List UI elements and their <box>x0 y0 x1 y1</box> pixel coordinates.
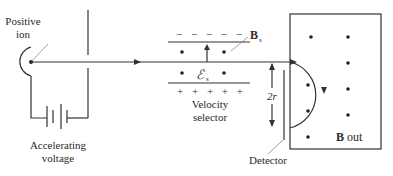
field-dot <box>180 50 184 54</box>
es-label: ℰ <box>196 67 205 82</box>
ion-leader-line <box>31 44 48 62</box>
accelerating-voltage-label-2: voltage <box>42 152 74 164</box>
beam-arrow-icon <box>134 59 141 65</box>
bs-subscript: s <box>259 36 262 44</box>
b-field-dots <box>306 35 350 139</box>
detector-leader-line <box>268 140 283 154</box>
magnetic-field-region <box>290 14 381 149</box>
ion-trajectory-arc <box>290 62 316 128</box>
diagram-canvas: Positive ion Accelerating voltage Veloci… <box>0 0 393 176</box>
es-subscript: s <box>206 75 209 83</box>
bs-label: B <box>250 28 258 42</box>
velocity-selector-label: Velocity <box>192 98 229 110</box>
battery-icon <box>47 104 67 129</box>
arrow-down-icon <box>321 87 327 94</box>
b-out-rest: out <box>344 130 363 144</box>
arrow-down-icon <box>269 120 275 127</box>
field-dot <box>222 71 226 75</box>
field-dot <box>222 50 226 54</box>
field-dot <box>180 71 184 75</box>
positive-plate-signs: + + + + + <box>177 85 246 97</box>
arrow-up-icon <box>204 44 210 50</box>
circuit-wire-left <box>31 76 47 118</box>
negative-plate-signs: − − − − − <box>176 28 245 40</box>
positive-ion-label: Positive <box>5 15 41 27</box>
mass-spectrometer-diagram: Positive ion Accelerating voltage Veloci… <box>0 0 393 176</box>
diameter-label: 2r <box>267 90 278 102</box>
detector-label: Detector <box>249 154 287 166</box>
b-out-bold: B <box>336 130 344 144</box>
arrow-up-icon <box>269 63 275 70</box>
b-out-label: B out <box>336 130 363 144</box>
positive-ion-label-2: ion <box>16 28 31 40</box>
velocity-selector-label-2: selector <box>193 111 228 123</box>
accelerating-voltage-label: Accelerating <box>30 139 87 151</box>
